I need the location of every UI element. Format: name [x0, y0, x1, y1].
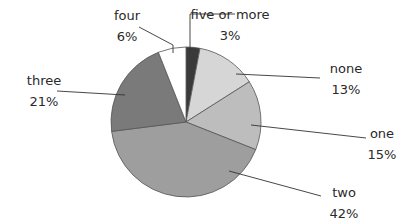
- slice-percent: 42%: [330, 203, 359, 223]
- slice-name: none: [330, 58, 362, 79]
- slice-name: five or more: [190, 4, 269, 25]
- leader-line: [236, 74, 320, 78]
- slice-name: four: [114, 5, 140, 26]
- slice-name: three: [27, 70, 61, 91]
- slice-label-two: two42%: [330, 182, 359, 223]
- slice-percent: 21%: [27, 91, 61, 112]
- leader-line: [251, 125, 366, 138]
- slice-label-three: three21%: [27, 70, 61, 112]
- slice-percent: 13%: [330, 79, 362, 100]
- slice-label-one: one15%: [368, 123, 397, 165]
- slice-name: one: [368, 123, 397, 144]
- leader-line: [57, 91, 125, 95]
- slice-percent: 6%: [114, 26, 140, 47]
- slice-label-none: none13%: [330, 58, 362, 100]
- slice-label-four: four6%: [114, 5, 140, 47]
- slice-percent: 15%: [368, 144, 397, 165]
- slice-name: two: [330, 182, 359, 203]
- leader-line: [229, 171, 321, 196]
- slice-label-five-or-more: five or more3%: [190, 4, 269, 46]
- slice-percent: 3%: [190, 25, 269, 46]
